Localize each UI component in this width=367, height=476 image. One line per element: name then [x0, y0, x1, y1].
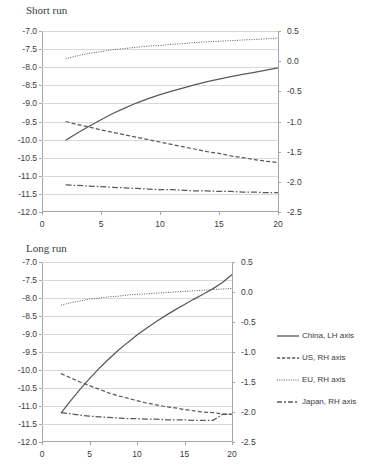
y-axis-right-tick-mark [232, 292, 235, 293]
series-line-us [66, 122, 278, 163]
y-axis-right-tick-label: -2.0 [287, 178, 302, 187]
y-axis-right-tick-label: 0.5 [287, 27, 299, 36]
legend-item[interactable]: Japan, RH axis [277, 391, 367, 413]
y-axis-right-tick-mark [232, 412, 235, 413]
legend-item-label: Japan, RH axis [302, 398, 356, 406]
legend-item-label: China, LH axis [302, 332, 354, 340]
x-axis-tick-label: 5 [86, 220, 116, 229]
y-axis-left-tick-label: -7.5 [9, 276, 37, 285]
y-axis-left-tick-label: -8.5 [9, 312, 37, 321]
y-axis-left-tick-label: -10.0 [9, 366, 37, 375]
y-axis-right-tick-mark [232, 382, 235, 383]
x-axis-tick-mark [232, 442, 233, 445]
y-axis-left-tick-label: -8.5 [9, 81, 37, 90]
y-axis-right-tick-label: 0.0 [287, 57, 299, 66]
plot-area-short-run: -7.0-7.5-8.0-8.5-9.0-9.5-10.0-10.5-11.0-… [42, 31, 278, 212]
y-axis-left-tick-label: -12.0 [9, 208, 37, 217]
x-axis-tick-mark [101, 212, 102, 215]
y-axis-left-tick-label: -10.0 [9, 136, 37, 145]
y-axis-right-tick-label: 0.0 [241, 288, 253, 297]
y-axis-right-tick-mark [232, 322, 235, 323]
y-axis-right-tick-label: -1.0 [241, 348, 256, 357]
y-axis-right-tick-mark [278, 182, 281, 183]
x-axis-tick-label: 15 [170, 450, 200, 459]
y-axis-right-tick-mark [232, 352, 235, 353]
legend-line-swatch [277, 353, 299, 363]
y-axis-right-tick-label: -0.5 [287, 87, 302, 96]
y-axis-right-tick-label: 0.5 [241, 258, 253, 267]
chart-title-short-run: Short run [26, 4, 67, 16]
y-axis-right-tick-mark [278, 152, 281, 153]
x-axis-tick-label: 0 [27, 450, 57, 459]
y-axis-left-tick-label: -11.0 [9, 172, 37, 181]
x-axis-tick-mark [137, 442, 138, 445]
y-axis-right-tick-label: -2.0 [241, 408, 256, 417]
y-axis-left-tick-label: -11.5 [9, 420, 37, 429]
x-axis-tick-mark [219, 212, 220, 215]
y-axis-left-tick-label: -9.5 [9, 118, 37, 127]
y-axis-right-tick-mark [278, 61, 281, 62]
y-axis-left-tick-label: -7.0 [9, 27, 37, 36]
series-line-china [61, 275, 232, 414]
x-axis-tick-mark [90, 442, 91, 445]
y-axis-right-tick-label: -1.5 [287, 148, 302, 157]
legend-item[interactable]: EU, RH axis [277, 369, 367, 391]
x-axis-tick-label: 5 [75, 450, 105, 459]
legend-line-swatch [277, 375, 299, 385]
y-axis-right-tick-label: -2.5 [241, 438, 256, 447]
chart-panel-short-run: Short run -7.0-7.5-8.0-8.5-9.0-9.5-10.0-… [0, 0, 367, 240]
x-axis-tick-label: 10 [145, 220, 175, 229]
x-axis-tick-label: 20 [263, 220, 293, 229]
chart-title-long-run: Long run [26, 242, 67, 254]
series-layer [42, 262, 232, 442]
series-line-japan [61, 413, 232, 421]
x-axis-tick-mark [42, 442, 43, 445]
y-axis-left-tick-label: -11.0 [9, 402, 37, 411]
series-layer [42, 31, 278, 212]
series-line-eu [66, 38, 278, 59]
chart-legend: China, LH axisUS, RH axisEU, RH axisJapa… [277, 325, 367, 413]
y-axis-right-tick-mark [232, 262, 235, 263]
x-axis-tick-mark [160, 212, 161, 215]
x-axis-tick-label: 20 [217, 450, 247, 459]
x-axis-tick-label: 15 [204, 220, 234, 229]
y-axis-left-tick-label: -7.5 [9, 45, 37, 54]
legend-item[interactable]: US, RH axis [277, 347, 367, 369]
y-axis-left-tick-label: -9.0 [9, 99, 37, 108]
legend-line-swatch [277, 397, 299, 407]
legend-item-label: EU, RH axis [302, 376, 346, 384]
y-axis-left-tick-label: -8.0 [9, 294, 37, 303]
y-axis-right-tick-mark [278, 122, 281, 123]
y-axis-left-tick-label: -10.5 [9, 154, 37, 163]
y-axis-left-tick-label: -9.5 [9, 348, 37, 357]
y-axis-right-tick-label: -2.5 [287, 208, 302, 217]
x-axis-tick-mark [278, 212, 279, 215]
y-axis-left-tick-label: -12.0 [9, 438, 37, 447]
legend-line-swatch [277, 331, 299, 341]
legend-item[interactable]: China, LH axis [277, 325, 367, 347]
y-axis-left-tick-label: -11.5 [9, 190, 37, 199]
y-axis-right-tick-mark [278, 91, 281, 92]
y-axis-right-tick-mark [278, 31, 281, 32]
y-axis-left-tick-label: -10.5 [9, 384, 37, 393]
plot-area-long-run: -7.0-7.5-8.0-8.5-9.0-9.5-10.0-10.5-11.0-… [42, 262, 232, 442]
y-axis-left-tick-label: -8.0 [9, 63, 37, 72]
legend-item-label: US, RH axis [302, 354, 346, 362]
x-axis-tick-label: 10 [122, 450, 152, 459]
x-axis-tick-label: 0 [27, 220, 57, 229]
y-axis-right-tick-label: -1.5 [241, 378, 256, 387]
series-line-japan [66, 185, 278, 193]
series-line-eu [61, 288, 232, 305]
y-axis-right-tick-label: -0.5 [241, 318, 256, 327]
y-axis-right-tick-label: -1.0 [287, 118, 302, 127]
series-line-us [61, 374, 232, 415]
x-axis-tick-mark [42, 212, 43, 215]
y-axis-left-tick-label: -7.0 [9, 258, 37, 267]
x-axis-tick-mark [185, 442, 186, 445]
y-axis-left-tick-label: -9.0 [9, 330, 37, 339]
